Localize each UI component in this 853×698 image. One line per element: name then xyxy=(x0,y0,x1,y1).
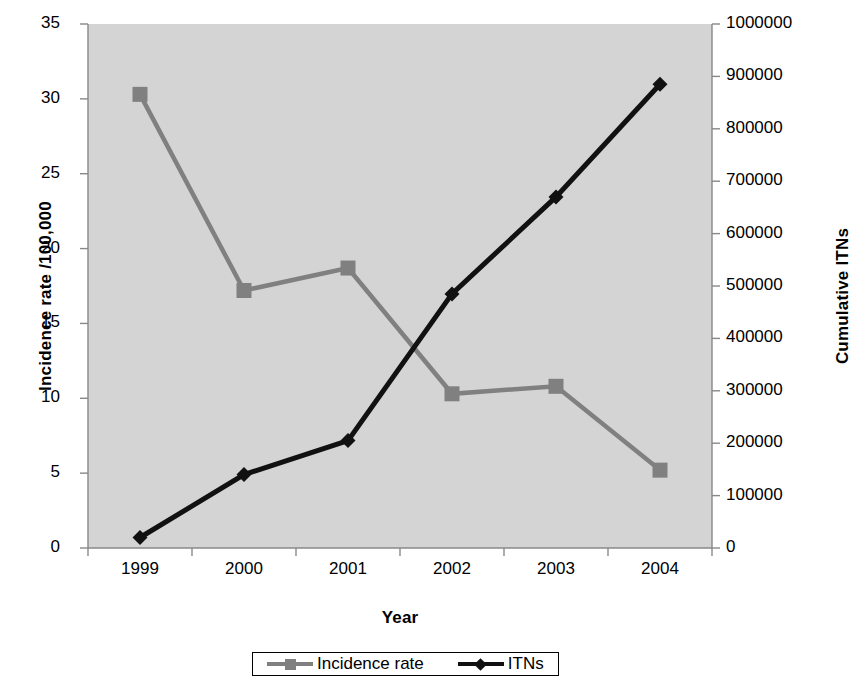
legend-label-incidence-rate: Incidence rate xyxy=(317,654,424,674)
right-axis-tick-label: 800000 xyxy=(726,119,846,136)
x-axis-tick-label: 2000 xyxy=(199,560,289,577)
x-axis-tick-label: 2004 xyxy=(615,560,705,577)
right-axis-tick-label: 0 xyxy=(726,538,846,555)
legend-label-itns: ITNs xyxy=(508,654,544,674)
legend-swatch-itns xyxy=(458,657,504,671)
left-axis-tick-label: 30 xyxy=(0,89,60,106)
right-axis-tick-label: 300000 xyxy=(726,381,846,398)
right-axis-tick-label: 900000 xyxy=(726,66,846,83)
chart-legend: Incidence rate ITNs xyxy=(252,652,559,676)
x-axis-title: Year xyxy=(0,608,800,628)
left-axis-tick-label: 35 xyxy=(0,14,60,31)
x-axis-tick-label: 1999 xyxy=(95,560,185,577)
x-axis-tick-label: 2001 xyxy=(303,560,393,577)
data-point-marker-square xyxy=(237,283,252,298)
left-axis-tick-label: 10 xyxy=(0,388,60,405)
right-axis-tick-label: 100000 xyxy=(726,486,846,503)
data-point-marker-square xyxy=(653,463,668,478)
right-axis-tick-label: 200000 xyxy=(726,433,846,450)
data-point-marker-square xyxy=(133,87,148,102)
left-axis-tick-label: 20 xyxy=(0,239,60,256)
x-axis-tick-label: 2003 xyxy=(511,560,601,577)
right-axis-title: Cumulative ITNs xyxy=(833,146,853,446)
left-axis-tick-label: 5 xyxy=(0,463,60,480)
right-axis-tick-label: 400000 xyxy=(726,328,846,345)
legend-entry-incidence-rate: Incidence rate xyxy=(267,654,424,674)
left-axis-tick-label: 25 xyxy=(0,164,60,181)
left-axis-tick-label: 0 xyxy=(0,538,60,555)
diamond-marker-icon xyxy=(474,658,487,671)
right-axis-tick-label: 600000 xyxy=(726,224,846,241)
x-axis-tick-label: 2002 xyxy=(407,560,497,577)
data-point-marker-square xyxy=(445,386,460,401)
square-marker-icon xyxy=(285,659,296,670)
right-axis-tick-label: 500000 xyxy=(726,276,846,293)
left-axis-tick-label: 15 xyxy=(0,313,60,330)
data-point-marker-square xyxy=(341,261,356,276)
right-axis-tick-label: 700000 xyxy=(726,171,846,188)
plot-background xyxy=(88,24,712,548)
data-point-marker-square xyxy=(549,379,564,394)
right-axis-tick-label: 1000000 xyxy=(726,14,846,31)
legend-entry-itns: ITNs xyxy=(458,654,544,674)
legend-swatch-incidence-rate xyxy=(267,657,313,671)
